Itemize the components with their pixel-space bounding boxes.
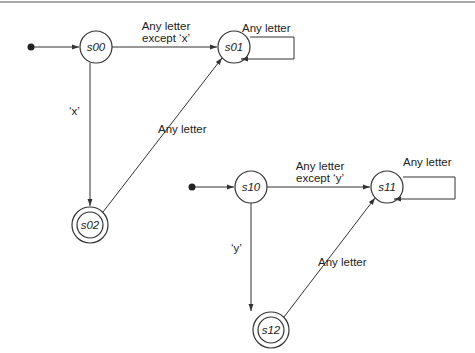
machine-2: s10 s11 s12 Any letter except ‘y’ Any le… (189, 156, 456, 348)
svg-text:s02: s02 (81, 219, 100, 231)
edge-label-s10-s11-l1: Any letter (296, 160, 345, 172)
edge-label-s00-s02: ‘x’ (69, 105, 80, 117)
state-s12-accepting: s12 (253, 312, 289, 348)
edge-label-s11-self: Any letter (403, 156, 452, 168)
edge-label-s10-s12: ‘y’ (231, 242, 242, 254)
edge-label-s00-s01-l2: except ‘x’ (142, 32, 190, 44)
edge-label-s10-s11-l2: except ‘y’ (296, 172, 344, 184)
edge-s02-s01 (103, 58, 222, 212)
state-s02-accepting: s02 (72, 207, 108, 243)
state-s10: s10 (235, 171, 267, 203)
machine-1: s00 s01 s02 Any letter except ‘x’ Any le… (28, 20, 295, 243)
edge-label-s12-s11: Any letter (318, 256, 367, 268)
svg-text:s00: s00 (87, 41, 106, 53)
edge-label-s01-self: Any letter (242, 22, 291, 34)
svg-text:s10: s10 (242, 181, 261, 193)
svg-text:s11: s11 (378, 181, 396, 193)
edge-label-s00-s01-l1: Any letter (142, 20, 191, 32)
svg-text:s01: s01 (225, 41, 244, 53)
state-s01: s01 (218, 31, 250, 63)
state-s11: s11 (371, 171, 403, 203)
initial-dot-s10 (189, 184, 196, 191)
fsm-diagram: s00 s01 s02 Any letter except ‘x’ Any le… (0, 0, 475, 353)
edge-label-s02-s01: Any letter (158, 123, 207, 135)
svg-text:s12: s12 (262, 324, 281, 336)
initial-dot-s00 (28, 44, 35, 51)
state-s00: s00 (80, 31, 112, 63)
